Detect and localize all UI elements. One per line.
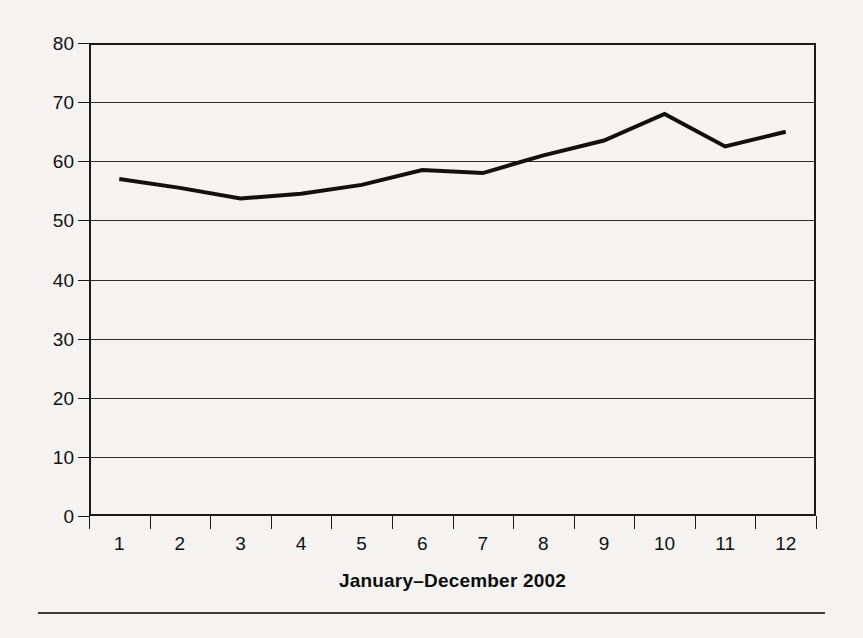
y-axis-tick-mark	[78, 161, 89, 162]
y-axis-tick-mark	[78, 102, 89, 103]
chart-figure: 01020304050607080 123456789101112 Januar…	[0, 0, 863, 638]
y-axis-tick-mark	[78, 339, 89, 340]
y-axis-tick-labels: 01020304050607080	[22, 0, 74, 638]
y-axis-tick-label: 80	[28, 34, 74, 53]
y-axis-tick-label: 10	[28, 447, 74, 466]
y-axis-tick-label: 20	[28, 388, 74, 407]
x-axis-tick-mark	[89, 516, 90, 529]
x-axis-tick-mark	[695, 516, 696, 529]
x-axis-tick-label: 3	[210, 534, 270, 555]
x-axis-tick-mark	[453, 516, 454, 529]
x-axis-tick-mark	[816, 516, 817, 529]
x-axis-tick-mark	[210, 516, 211, 529]
footer-divider	[38, 612, 825, 614]
y-axis-tick-label: 70	[28, 93, 74, 112]
data-series-line	[89, 43, 816, 516]
x-axis-tick-mark	[574, 516, 575, 529]
x-axis-tick-label: 1	[89, 534, 149, 555]
x-axis-tick-mark	[755, 516, 756, 529]
y-axis-tick-mark	[78, 398, 89, 399]
x-axis-tick-label: 6	[392, 534, 452, 555]
y-axis-tick-label: 60	[28, 152, 74, 171]
x-axis-tick-label: 8	[513, 534, 573, 555]
x-axis-tick-mark	[513, 516, 514, 529]
x-axis-tick-marks	[89, 516, 816, 530]
y-axis-tick-label: 0	[28, 507, 74, 526]
y-axis-tick-mark	[78, 280, 89, 281]
x-axis-tick-mark	[331, 516, 332, 529]
y-axis-tick-mark	[78, 457, 89, 458]
x-axis-tick-label: 4	[271, 534, 331, 555]
x-axis-tick-label: 7	[453, 534, 513, 555]
x-axis-tick-mark	[271, 516, 272, 529]
x-axis-tick-label: 5	[332, 534, 392, 555]
x-axis-tick-mark	[634, 516, 635, 529]
x-axis-title: January–December 2002	[89, 570, 816, 592]
y-axis-tick-mark	[78, 516, 89, 517]
x-axis-tick-labels: 123456789101112	[89, 534, 816, 560]
x-axis-tick-mark	[150, 516, 151, 529]
x-axis-tick-mark	[392, 516, 393, 529]
y-axis-tick-mark	[78, 220, 89, 221]
x-axis-tick-label: 10	[635, 534, 695, 555]
x-axis-tick-label: 2	[150, 534, 210, 555]
y-axis-tick-label: 30	[28, 329, 74, 348]
y-axis-tick-label: 50	[28, 211, 74, 230]
y-axis-tick-label: 40	[28, 270, 74, 289]
x-axis-tick-label: 11	[695, 534, 755, 555]
y-axis-tick-mark	[78, 43, 89, 44]
x-axis-tick-label: 12	[756, 534, 816, 555]
x-axis-tick-label: 9	[574, 534, 634, 555]
